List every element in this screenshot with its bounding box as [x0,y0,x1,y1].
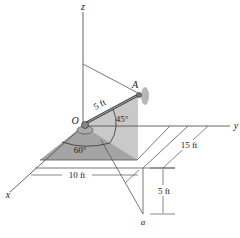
dim-10ft-label: 10 ft [69,170,86,180]
angle-60-label: 60° [74,145,87,155]
angle-45-label: 45° [116,114,129,124]
dim-5ft-label: 5 ft [158,186,171,196]
rod-length-label: 5 ft [92,97,108,112]
box-line [137,126,170,160]
projection-line [83,64,138,93]
wall-mount-icon [141,87,149,105]
dim-15ft-label: 15 ft [181,140,198,150]
y-axis-label: y [233,120,239,131]
origin-label: O [71,115,78,126]
z-axis-label: z [80,1,85,12]
statics-diagram: 10 ft 15 ft 5 ft z y x O A a 5 ft 45° 60… [0,0,240,238]
joint-A-icon [137,93,142,98]
joint-O-icon [82,122,89,129]
dim-10ft-tick [125,170,139,183]
point-A-label: A [131,79,139,90]
point-a-label: a [141,217,146,227]
x-axis-label: x [5,189,11,200]
